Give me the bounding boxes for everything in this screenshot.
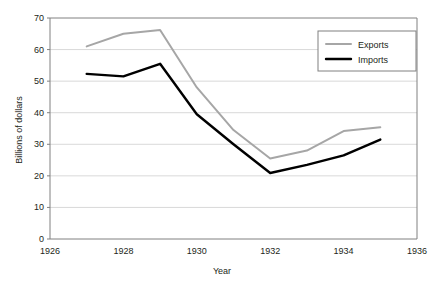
y-tick-label: 60 (34, 45, 44, 55)
y-tick-label: 40 (34, 108, 44, 118)
y-tick-label: 30 (34, 139, 44, 149)
x-tick-label: 1932 (260, 246, 280, 256)
x-tick-label: 1934 (334, 246, 354, 256)
x-tick-label: 1936 (407, 246, 427, 256)
x-tick-label: 1926 (40, 246, 60, 256)
legend[interactable]: ExportsImports (318, 31, 416, 71)
y-tick-label: 70 (34, 13, 44, 23)
y-tick-label: 20 (34, 171, 44, 181)
chart-canvas: 010203040506070 192619281930193219341936… (0, 0, 431, 285)
y-tick-label: 0 (39, 234, 44, 244)
legend-label-imports[interactable]: Imports (358, 55, 389, 65)
x-axis-title: Year (213, 266, 231, 276)
x-tick-label: 1928 (113, 246, 133, 256)
legend-box (318, 31, 416, 71)
y-axis-title: Billions of dollars (14, 96, 24, 164)
x-tick-label: 1930 (187, 246, 207, 256)
line-chart: 010203040506070 192619281930193219341936… (0, 0, 431, 285)
y-tick-label: 50 (34, 76, 44, 86)
y-tick-label: 10 (34, 202, 44, 212)
legend-label-exports[interactable]: Exports (358, 40, 389, 50)
